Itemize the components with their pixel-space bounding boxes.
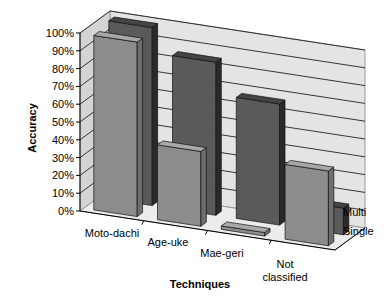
y-tick-label: 30% — [52, 152, 74, 164]
y-tick-label: 100% — [46, 27, 74, 39]
y-tick-label: 0% — [58, 205, 74, 217]
bar-single-3 — [285, 160, 334, 245]
bar-multi-2 — [236, 93, 285, 225]
category-label: Moto-dachi — [85, 227, 139, 239]
bar-single-1 — [158, 141, 207, 226]
y-tick-label: 90% — [52, 45, 74, 57]
y-tick-label: 60% — [52, 98, 74, 110]
x-axis-title: Techniques — [170, 278, 230, 290]
y-tick-label: 20% — [52, 169, 74, 181]
y-axis-title: Accuracy — [26, 102, 38, 152]
y-tick-label: 40% — [52, 134, 74, 146]
accuracy-3d-column-chart: 0%10%20%30%40%50%60%70%80%90%100% Moto-d… — [0, 0, 384, 305]
y-tick-label: 80% — [52, 63, 74, 75]
bar-single-0 — [94, 32, 143, 217]
series-label-single: Single — [343, 225, 374, 237]
y-axis-ticks: 0%10%20%30%40%50%60%70%80%90%100% — [46, 27, 80, 217]
y-tick-label: 50% — [52, 116, 74, 128]
category-label: Not — [276, 258, 293, 270]
category-label: Age-uke — [148, 236, 189, 248]
category-label: Mae-geri — [200, 247, 243, 259]
category-label: classified — [262, 271, 307, 283]
series-label-multi: Multi — [343, 206, 366, 218]
y-tick-label: 70% — [52, 80, 74, 92]
y-tick-label: 10% — [52, 187, 74, 199]
